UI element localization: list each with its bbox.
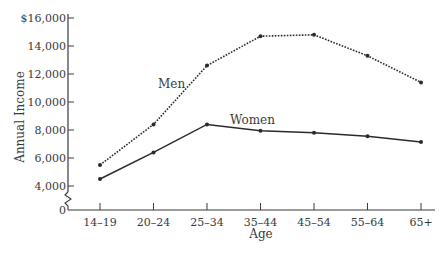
axes <box>65 14 435 210</box>
men-series-label: Men <box>158 77 185 91</box>
y-tick-label: 14,000 <box>28 40 67 53</box>
y-tick-label: 10,000 <box>28 96 67 109</box>
y-tick-label: 0 <box>59 204 66 217</box>
y-axis-title: Annual Income <box>13 71 27 164</box>
y-tick-label: $16,000 <box>21 12 67 25</box>
women-data-point <box>366 134 370 138</box>
men-data-point <box>366 54 370 58</box>
women-data-point <box>259 129 263 133</box>
women-data-point <box>205 122 209 126</box>
x-tick-label: 65+ <box>409 216 432 229</box>
men-line <box>100 35 421 165</box>
men-data-point <box>98 163 102 167</box>
men-data-point <box>312 33 316 37</box>
x-axis-title: Age <box>248 227 272 241</box>
men-data-point <box>152 122 156 126</box>
women-data-point <box>152 150 156 154</box>
men-data-point <box>259 34 263 38</box>
income-by-age-chart: $16,00014,00012,00010,0008,0006,0004,000… <box>0 0 446 253</box>
x-tick-label: 45–54 <box>297 216 331 229</box>
x-axis-ticks: 14–1920–2425–3435–4445–5455–6465+ <box>83 203 432 229</box>
y-tick-label: 6,000 <box>35 152 67 165</box>
x-tick-label: 55–64 <box>351 216 385 229</box>
x-tick-label: 14–19 <box>83 216 117 229</box>
women-data-point <box>312 131 316 135</box>
series-lines <box>98 33 423 181</box>
men-data-point <box>419 80 423 84</box>
women-data-point <box>98 177 102 181</box>
y-axis-ticks: $16,00014,00012,00010,0008,0006,0004,000… <box>21 12 75 217</box>
x-tick-label: 25–34 <box>190 216 224 229</box>
women-data-point <box>419 140 423 144</box>
y-tick-label: 4,000 <box>35 180 67 193</box>
x-tick-label: 20–24 <box>137 216 171 229</box>
women-series-label: Women <box>230 113 275 127</box>
y-tick-label: 8,000 <box>35 124 67 137</box>
y-tick-label: 12,000 <box>28 68 67 81</box>
men-data-point <box>205 64 209 68</box>
